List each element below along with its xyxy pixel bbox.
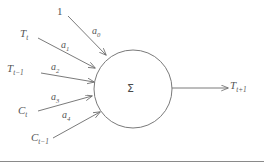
weight-label-a3-sub: 3 (56, 97, 59, 104)
input-label-t-t: Tt (20, 28, 28, 42)
input-label-c-t-sub: t (25, 111, 27, 119)
input-arrow-t-tm1 (41, 73, 94, 82)
input-arrow-c-tm1 (53, 112, 100, 138)
weight-label-a2: a2 (51, 62, 59, 75)
input-label-t-tm1-sub: t−1 (13, 69, 24, 77)
weight-label-a4-sub: 4 (67, 115, 70, 122)
input-label-c-tm1: Ct−1 (31, 132, 49, 146)
input-label-t-t-sub: t (26, 34, 28, 42)
input-label-bias-text: 1 (57, 5, 63, 17)
weight-label-a0-sub: 0 (97, 31, 100, 38)
weight-label-a1: a1 (61, 40, 69, 53)
summation-symbol: Σ (127, 83, 134, 94)
diagram-canvas: Σ 1 a0 Tt a1 Tt−1 a2 Ct a3 Ct−1 a4 Tt+1 (0, 0, 264, 166)
input-label-bias: 1 (57, 6, 63, 17)
weight-label-a0: a0 (92, 26, 100, 39)
output-label-sub: t+1 (236, 86, 247, 94)
weight-label-a1-sub: 1 (66, 45, 69, 52)
input-label-c-tm1-sub: t−1 (38, 138, 49, 146)
weight-label-a4: a4 (62, 110, 70, 123)
input-label-c-t: Ct (18, 105, 27, 119)
bottom-divider (0, 161, 264, 162)
weight-label-a3: a3 (51, 92, 59, 105)
input-label-t-tm1: Tt−1 (7, 63, 24, 77)
weight-label-a2-sub: 2 (56, 67, 59, 74)
input-arrow-bias (68, 16, 106, 55)
output-label: Tt+1 (230, 80, 247, 94)
